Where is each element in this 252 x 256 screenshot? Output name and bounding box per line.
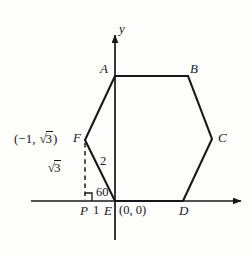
- point-label-p: P: [80, 204, 88, 217]
- geometry-figure: y A B C D E F P (0, 0) 2 60 1 √3 (−1, √3…: [0, 0, 252, 256]
- radical-argument-coord: 3: [46, 131, 54, 145]
- origin-coordinates-label: (0, 0): [119, 204, 146, 217]
- right-angle-marker: [85, 193, 92, 201]
- vertex-label-e: E: [104, 204, 112, 217]
- vertex-label-a: A: [100, 62, 108, 75]
- figure-canvas: [0, 0, 252, 256]
- hexagon-shape: [85, 76, 212, 201]
- radical-group: √3: [47, 160, 61, 174]
- coord-suffix: ): [53, 131, 57, 146]
- coord-prefix: (−1,: [14, 131, 39, 146]
- height-sqrt3-label: √3: [47, 160, 61, 174]
- vertex-label-d: D: [179, 204, 188, 217]
- vertex-f-coordinates-label: (−1, √3): [14, 131, 57, 145]
- radical-argument: 3: [54, 160, 62, 174]
- vertex-label-f: F: [73, 131, 81, 144]
- side-length-label: 2: [100, 155, 106, 168]
- vertex-label-b: B: [190, 62, 198, 75]
- y-axis-label: y: [119, 22, 125, 35]
- vertex-label-c: C: [218, 131, 227, 144]
- unit-length-label: 1: [93, 204, 99, 217]
- angle-label-60: 60: [96, 186, 109, 199]
- radical-group-coord: √3: [39, 131, 53, 145]
